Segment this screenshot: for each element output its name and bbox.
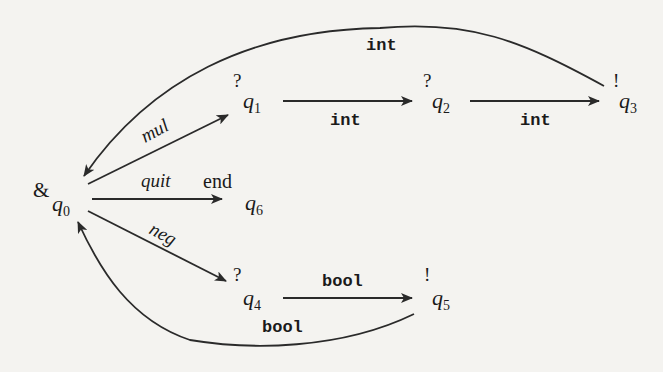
- edge-label-q3-q0: int: [366, 36, 397, 55]
- state-q5: q5: [432, 285, 450, 314]
- state-q3: q3: [619, 88, 637, 117]
- edges-layer: [0, 0, 663, 372]
- edge-label-q2-q3: int: [520, 111, 551, 130]
- state-q6-marker: end: [203, 170, 232, 193]
- state-q6: q6: [245, 190, 263, 219]
- state-q0-marker: &: [33, 178, 49, 203]
- edge-label-quit: quit: [141, 170, 171, 192]
- state-q1: q1: [243, 88, 261, 117]
- edge-q5-q0: [78, 222, 414, 346]
- edge-label-q1-q2: int: [330, 111, 361, 130]
- state-q1-marker: ?: [233, 70, 241, 92]
- state-q4: q4: [243, 285, 261, 314]
- edge-label-q5-q0: bool: [262, 318, 303, 337]
- state-q2: q2: [432, 88, 450, 117]
- edge-label-q4-q5: bool: [322, 272, 363, 291]
- state-q4-marker: ?: [233, 264, 241, 286]
- state-q0: q0: [52, 191, 70, 220]
- state-q2-marker: ?: [423, 70, 431, 92]
- state-q5-marker: !: [424, 264, 430, 286]
